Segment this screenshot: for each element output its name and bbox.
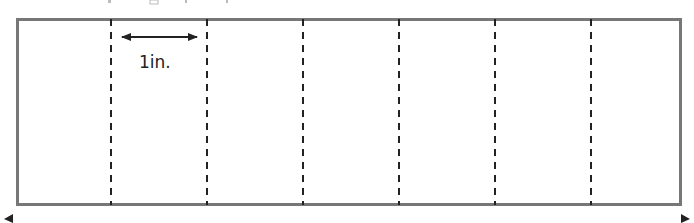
left-arrow-tip-icon (4, 214, 13, 223)
cropped-top-text (108, 0, 228, 4)
right-arrow-tip-icon (681, 214, 690, 223)
measurement-label: 1in. (139, 52, 171, 72)
folded-strip-diagram (0, 0, 694, 223)
bottom-arrow (4, 214, 690, 223)
paper-strip (18, 20, 681, 205)
